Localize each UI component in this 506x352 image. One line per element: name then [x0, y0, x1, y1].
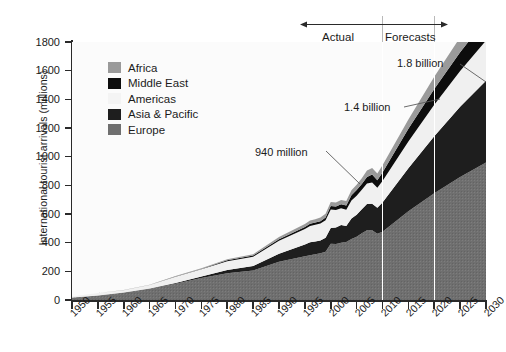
legend-label-middle-east: Middle East [128, 77, 188, 89]
legend-item-asia-pacific[interactable]: Asia & Pacific [108, 107, 198, 123]
leader-1-4-billion [404, 98, 446, 122]
y-tick-label: 0 [26, 295, 60, 306]
legend-swatch-africa [108, 62, 121, 73]
legend-label-asia-pacific: Asia & Pacific [128, 108, 198, 120]
y-tick-mark [65, 127, 72, 129]
legend-item-middle-east[interactable]: Middle East [108, 76, 198, 92]
y-tick-mark [65, 271, 72, 273]
legend-item-americas[interactable]: Americas [108, 91, 198, 107]
actual-forecast-arrow-icon [300, 20, 448, 29]
y-tick-label: 800 [26, 180, 60, 191]
legend-swatch-europe [108, 124, 121, 135]
y-tick-mark [65, 70, 72, 72]
y-tick-label: 1400 [26, 94, 60, 105]
y-tick-mark [65, 99, 72, 101]
label-forecasts: Forecasts [385, 31, 436, 43]
y-tick-mark [65, 156, 72, 158]
legend-swatch-asia-pacific [108, 109, 121, 120]
y-tick-label: 200 [26, 266, 60, 277]
legend-label-europe: Europe [128, 124, 165, 136]
legend-swatch-americas [108, 93, 121, 104]
y-tick-label: 1200 [26, 123, 60, 134]
y-tick-mark [65, 242, 72, 244]
y-tick-label: 1000 [26, 151, 60, 162]
label-actual: Actual [322, 31, 354, 43]
legend-item-europe[interactable]: Europe [108, 122, 198, 138]
divider-2020 [434, 42, 435, 300]
y-tick-mark [65, 213, 72, 215]
annotation-1-8-billion: 1.8 billion [397, 57, 443, 69]
leader-940-million [326, 151, 368, 191]
legend-swatch-middle-east [108, 78, 121, 89]
annotation-940-million: 940 million [255, 146, 308, 158]
y-tick-label: 1800 [26, 37, 60, 48]
y-tick-label: 400 [26, 237, 60, 248]
legend-label-africa: Africa [128, 62, 157, 74]
y-tick-label: 600 [26, 209, 60, 220]
legend-label-americas: Americas [128, 93, 176, 105]
legend: Africa Middle East Americas Asia & Pacif… [108, 60, 198, 138]
legend-item-africa[interactable]: Africa [108, 60, 198, 76]
y-tick-mark [65, 299, 72, 301]
divider-2010 [382, 42, 383, 300]
y-tick-label: 1600 [26, 65, 60, 76]
annotation-1-4-billion: 1.4 billion [344, 101, 390, 113]
y-tick-mark [65, 185, 72, 187]
y-tick-mark [65, 41, 72, 43]
leader-1-8-billion [460, 62, 494, 88]
